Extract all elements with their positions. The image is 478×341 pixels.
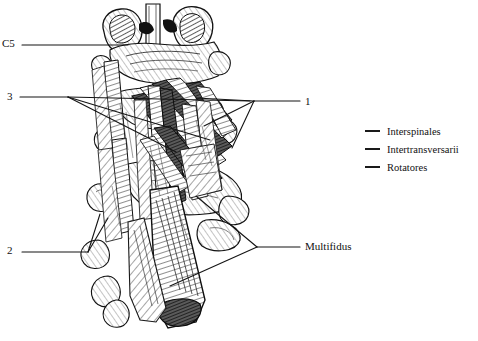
leader-1-branch3 — [232, 101, 254, 148]
line-swatch-icon — [365, 166, 380, 168]
callout-label-multifidus: Multifidus — [305, 241, 351, 252]
illustration-body — [81, 4, 249, 328]
legend-label-rotatores: Rotatores — [387, 162, 427, 173]
legend-item-intertransversarii: Intertransversarii — [365, 140, 477, 158]
legend-item-rotatores: Rotatores — [365, 158, 477, 176]
callout-label-2: 2 — [7, 245, 13, 256]
callout-label-1: 1 — [305, 96, 311, 107]
legend: Interspinales Intertransversarii Rotator… — [365, 122, 477, 176]
figure-root: C5 3 2 1 Multifidus Interspinales Intert… — [0, 0, 478, 341]
line-swatch-icon — [365, 148, 380, 150]
line-swatch-icon — [365, 130, 380, 132]
callout-label-3: 3 — [7, 91, 13, 102]
legend-label-intertransversarii: Intertransversarii — [387, 144, 459, 155]
legend-label-interspinales: Interspinales — [387, 126, 441, 137]
callout-label-c5: C5 — [2, 38, 15, 49]
legend-item-interspinales: Interspinales — [365, 122, 477, 140]
